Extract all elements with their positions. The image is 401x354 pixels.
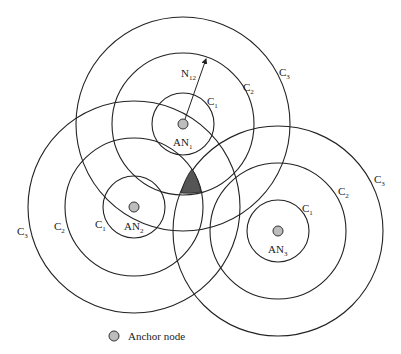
an3-c2-label: C2 (338, 185, 349, 200)
an2-c1-label: C1 (95, 218, 106, 233)
an1-label: AN1 (173, 136, 193, 151)
legend-label: Anchor node (128, 330, 185, 342)
an3-label: AN3 (268, 243, 288, 258)
legend-anchor-node-icon (109, 331, 119, 341)
n12-label: N12 (181, 67, 196, 82)
an3-c1-label: C1 (302, 202, 313, 217)
an1-c2-label: C2 (243, 81, 254, 96)
anchor-node-an3 (273, 226, 283, 236)
anchor-node-an2 (129, 202, 139, 212)
anchor-node-an1 (178, 119, 188, 129)
trilateration-diagram: AN1 AN2 AN3 N12 C1 C2 C3 C1 C2 C3 C1 C2 … (0, 0, 401, 354)
an1-c1-label: C1 (207, 95, 218, 110)
an2-c3-label: C3 (17, 225, 28, 240)
an3-c3-label: C3 (374, 173, 385, 188)
an2-c2-label: C2 (54, 220, 65, 235)
an1-c3-label: C3 (279, 66, 290, 81)
legend: Anchor node (109, 330, 185, 342)
intersection-region (181, 169, 201, 193)
